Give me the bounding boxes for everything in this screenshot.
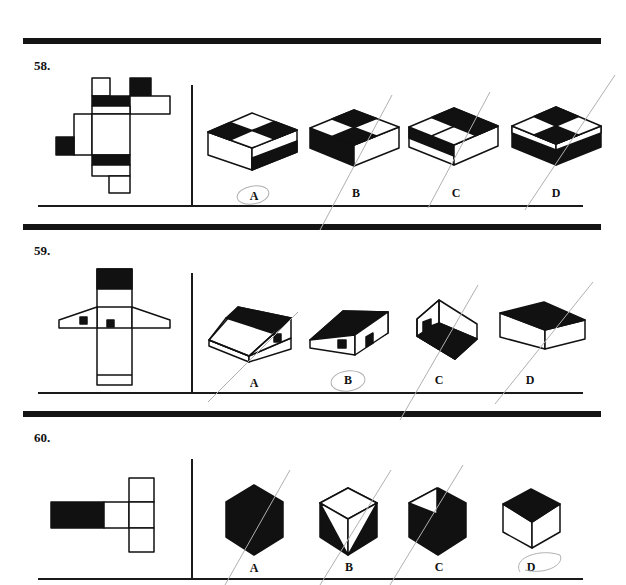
answer-circle-60 — [519, 553, 561, 572]
question-58-box-c — [409, 108, 498, 165]
question-60-cube-a — [226, 485, 283, 555]
question-60-cube-d — [503, 489, 560, 548]
question-58-net — [56, 78, 170, 193]
question-60-cube-b — [320, 488, 377, 555]
answer-circle-59 — [330, 369, 366, 394]
question-59-box-b — [310, 311, 388, 355]
question-58-box-a — [208, 113, 297, 170]
question-60-net — [51, 478, 154, 552]
question-59-net — [59, 269, 170, 385]
answer-circle-58 — [236, 183, 271, 206]
question-58-box-b — [310, 110, 399, 166]
question-60-cube-c — [409, 488, 466, 555]
question-59-box-c — [417, 300, 477, 359]
question-59-box-d — [500, 302, 585, 349]
figures-canvas — [0, 0, 626, 585]
question-59-box-a — [209, 307, 291, 362]
